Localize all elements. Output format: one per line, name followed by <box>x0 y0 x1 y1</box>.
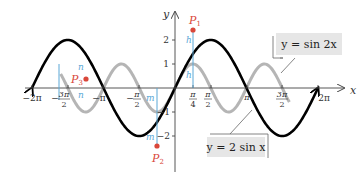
x-tick-neg-pi2-den: 2 <box>134 100 139 109</box>
x-tick-3pi2-den: 2 <box>279 100 284 109</box>
x-tick-neg-3pi2-den: 2 <box>61 100 66 109</box>
callout-label-sin2x: y = sin 2x <box>280 38 337 51</box>
x-tick-pi: π <box>243 93 250 102</box>
x-axis-label: x <box>350 84 357 97</box>
x-tick-pi2-num: π <box>204 90 211 99</box>
x-tick-neg-2pi: −2π <box>22 93 41 103</box>
y-tick-neg-2: −2 <box>157 131 170 141</box>
point-p1 <box>190 27 195 32</box>
y-axis-label: y <box>162 8 170 21</box>
y-tick-2: 2 <box>163 35 169 45</box>
graph-canvas: y = sin 2x y = 2 sin x x y −2π − 3π 2 −π… <box>0 0 358 177</box>
x-tick-pi4-num: π <box>189 90 196 99</box>
x-tick-neg-pi2-minus: − <box>126 93 134 103</box>
callout-label-2sinx: y = 2 sin x <box>206 141 267 154</box>
x-tick-3pi2-num: 3π <box>277 90 288 99</box>
segment-label-h-upper: h <box>186 35 192 45</box>
point-p2 <box>154 143 159 148</box>
segment-label-n-upper: n <box>78 62 84 72</box>
x-tick-pi4-den: 4 <box>190 100 195 109</box>
x-tick-neg-pi2-num: π <box>133 90 140 99</box>
x-tick-pi2-den: 2 <box>205 100 210 109</box>
callout-pointer-2sinx <box>230 110 252 134</box>
point-label-p2: P2 <box>151 152 164 166</box>
point-label-p3: P3 <box>70 73 83 87</box>
y-tick-neg-1: −1 <box>157 107 170 117</box>
y-tick-1: 1 <box>163 59 169 69</box>
x-tick-neg-3pi2-num: 3π <box>59 90 70 99</box>
x-tick-neg-3pi2-minus: − <box>51 93 59 103</box>
x-tick-labels: −2π − 3π 2 −π − π 2 π 4 π 2 π 3π 2 2π <box>22 90 329 109</box>
point-label-p1: P1 <box>188 14 201 28</box>
callout-pointer-sin2x <box>281 58 295 73</box>
segment-label-m-upper: m <box>146 93 155 103</box>
segment-label-n-lower: n <box>78 90 84 100</box>
x-tick-2pi: 2π <box>318 93 330 103</box>
segment-label-h-lower: h <box>186 70 192 80</box>
x-tick-neg-pi: −π <box>92 93 106 103</box>
segment-label-m-lower: m <box>146 132 155 142</box>
point-p3 <box>83 76 88 81</box>
